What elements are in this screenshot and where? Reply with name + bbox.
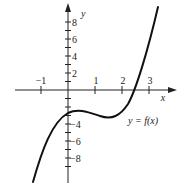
y-axis: 8 6 4 2 −4 −6 −8 y xyxy=(65,3,86,183)
y-tick-label: 8 xyxy=(72,17,77,28)
x-axis-label: x xyxy=(160,92,166,103)
function-graph: −1 1 2 3 x 8 6 4 2 −4 −6 −8 y xyxy=(0,0,185,189)
x-tick-label: 2 xyxy=(121,75,126,86)
x-tick-label: 3 xyxy=(148,75,153,86)
y-tick-label: 6 xyxy=(72,34,77,45)
x-tick-label: 1 xyxy=(94,75,99,86)
y-axis-label: y xyxy=(80,8,86,19)
y-tick-label: −6 xyxy=(70,136,81,147)
y-axis-arrow-icon xyxy=(65,3,71,12)
y-tick-label: −4 xyxy=(70,119,81,130)
function-curve xyxy=(33,7,158,182)
y-tick-label: 4 xyxy=(72,51,77,62)
y-tick-label: 2 xyxy=(72,68,77,79)
x-axis: −1 1 2 3 x xyxy=(15,75,177,103)
y-tick-label: −8 xyxy=(70,153,81,164)
x-tick-label: −1 xyxy=(36,75,47,86)
curve-label: y = f(x) xyxy=(127,115,159,127)
x-axis-arrow-icon xyxy=(168,87,177,93)
